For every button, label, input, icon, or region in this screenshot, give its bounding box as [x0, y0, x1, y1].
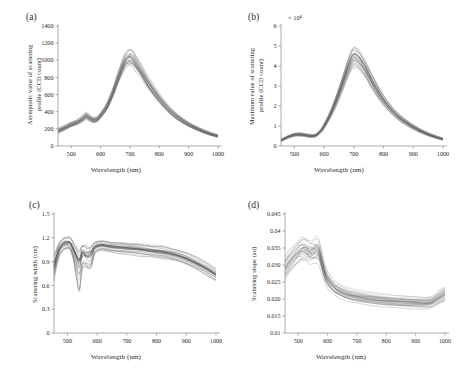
x-tick-label: 900: [182, 337, 191, 344]
spectral-curve: [285, 236, 445, 297]
x-tick-label: 500: [290, 150, 299, 157]
x-tick-label: 600: [323, 338, 332, 344]
x-tick-label: 900: [411, 338, 420, 344]
y-tick-label: 600: [44, 91, 53, 98]
panel-a-ylabel-line1: Asymptotic value of scattering: [26, 26, 35, 144]
panel-c-label: (c): [29, 200, 40, 210]
curve-bundle: [285, 236, 445, 309]
x-tick-label: 900: [184, 150, 193, 157]
y-tick-label: 1: [273, 122, 276, 129]
x-tick-label: 800: [379, 150, 388, 157]
panel-a-label: (a): [26, 12, 37, 22]
y-tick-label: 0.6: [42, 282, 50, 289]
panel-a-ylabel-line2: profile (CCD count): [35, 26, 44, 144]
panel-b-exponent: × 10⁴: [288, 14, 302, 21]
y-tick-label: 0: [46, 329, 49, 336]
x-tick-label: 600: [92, 337, 101, 344]
spectral-curve: [285, 239, 445, 299]
curve-bundle: [54, 237, 216, 292]
spectral-curve: [285, 244, 445, 300]
x-tick-label: 700: [352, 338, 361, 344]
x-tick-label: 800: [152, 337, 161, 344]
panel-d: (d) Scattering slope (au) 0.010.0150.020…: [231, 190, 462, 377]
panel-c: (c) Scattering width (cm) 00.30.60.91.21…: [0, 190, 231, 377]
y-tick-label: 0.045: [267, 211, 281, 217]
x-tick-label: 1000: [437, 150, 449, 157]
curve-bundle: [281, 47, 443, 142]
x-tick-label: 600: [319, 150, 328, 157]
x-tick-label: 900: [409, 150, 418, 157]
y-tick-label: 6: [273, 22, 276, 29]
panel-d-plot: 0.010.0150.0200.0250.0300.0350.040.04550…: [231, 190, 462, 377]
y-tick-label: 0.025: [267, 279, 281, 285]
x-tick-label: 1000: [212, 150, 224, 157]
y-tick-label: 400: [44, 108, 53, 115]
spectral-curve: [281, 50, 443, 140]
y-tick-label: 0.020: [267, 296, 281, 302]
x-tick-label: 800: [155, 150, 164, 157]
y-tick-label: 2: [273, 102, 276, 109]
y-tick-label: 200: [44, 125, 53, 132]
curve-bundle: [58, 50, 218, 138]
panel-d-xlabel: Wavelength (nm): [251, 353, 431, 361]
figure-panel-grid: (a) Asymptotic value of scattering profi…: [0, 0, 462, 377]
x-tick-label: 700: [125, 150, 134, 157]
panel-c-xlabel: Wavelength (nm): [26, 353, 206, 361]
panel-c-ylabel: Scattering width (cm): [31, 216, 40, 332]
panel-b-label: (b): [248, 12, 259, 22]
y-tick-label: 800: [44, 74, 53, 81]
x-tick-label: 500: [63, 337, 72, 344]
y-tick-label: 5: [273, 42, 276, 49]
x-tick-label: 700: [349, 150, 358, 157]
panel-b-ylabel-line2: profile (CCD count): [257, 28, 266, 144]
panel-d-label: (d): [248, 200, 259, 210]
x-tick-label: 800: [382, 338, 391, 344]
y-tick-label: 0.035: [267, 245, 281, 251]
spectral-curve: [281, 50, 443, 139]
spectral-curve: [58, 61, 218, 136]
y-tick-label: 1.5: [42, 210, 50, 217]
y-tick-label: 0: [273, 142, 276, 149]
y-tick-label: 0.015: [267, 313, 281, 319]
y-tick-label: 1.2: [42, 234, 50, 241]
y-tick-label: 0.9: [42, 258, 50, 265]
panel-b: (b) Maximum value of scattering profile …: [231, 0, 462, 190]
x-tick-label: 600: [96, 150, 105, 157]
x-tick-label: 1000: [439, 338, 451, 344]
y-tick-label: 4: [273, 62, 276, 69]
x-tick-label: 500: [67, 150, 76, 157]
y-tick-label: 0: [50, 142, 53, 149]
y-tick-label: 0.04: [270, 228, 281, 234]
panel-b-xlabel: Wavelength (nm): [249, 166, 429, 174]
panel-a-xlabel: Wavelength (nm): [26, 166, 206, 174]
y-tick-label: 3: [273, 82, 276, 89]
y-tick-label: 0.01: [270, 330, 281, 336]
x-tick-label: 500: [294, 338, 303, 344]
panel-b-ylabel-line1: Maximum value of scattering: [248, 28, 257, 144]
y-tick-label: 0.3: [42, 305, 50, 312]
x-tick-label: 1000: [210, 337, 222, 344]
y-tick-label: 0.030: [267, 262, 281, 268]
panel-a: (a) Asymptotic value of scattering profi…: [0, 0, 231, 190]
panel-d-ylabel: Scattering slope (au): [250, 216, 259, 332]
x-tick-label: 700: [122, 337, 131, 344]
